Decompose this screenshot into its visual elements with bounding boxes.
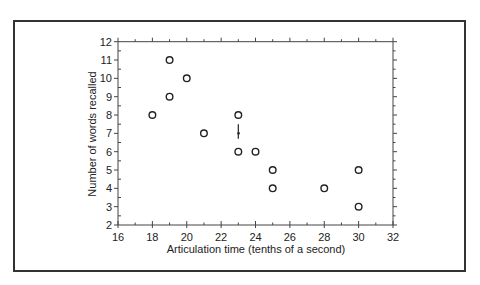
x-tick-label: 20 bbox=[181, 231, 193, 243]
x-tick-label: 16 bbox=[112, 231, 124, 243]
scatter-chart: 16182022242628303223456789101112 Articul… bbox=[0, 0, 480, 285]
y-tick-label: 2 bbox=[106, 219, 112, 231]
x-tick-label: 28 bbox=[318, 231, 330, 243]
x-tick-label: 22 bbox=[215, 231, 227, 243]
y-tick-label: 6 bbox=[106, 146, 112, 158]
data-point-marker bbox=[355, 203, 362, 210]
data-point-marker bbox=[355, 167, 362, 174]
y-tick-label: 5 bbox=[106, 164, 112, 176]
data-point-marker bbox=[235, 112, 242, 119]
y-axis-label: Number of words recalled bbox=[86, 71, 98, 196]
y-tick-label: 9 bbox=[106, 91, 112, 103]
y-tick-label: 10 bbox=[100, 72, 112, 84]
x-tick-label: 24 bbox=[249, 231, 261, 243]
data-points bbox=[149, 57, 362, 210]
y-tick-label: 7 bbox=[106, 127, 112, 139]
y-tick-label: 3 bbox=[106, 201, 112, 213]
data-point-marker bbox=[166, 93, 173, 100]
x-tick-label: 32 bbox=[387, 231, 399, 243]
data-point-marker bbox=[252, 148, 259, 155]
data-point-marker bbox=[183, 75, 190, 82]
data-point-marker bbox=[321, 185, 328, 192]
mean-marker bbox=[237, 124, 240, 139]
x-tick-label: 18 bbox=[146, 231, 158, 243]
x-tick-label: 30 bbox=[353, 231, 365, 243]
tick-labels: 16182022242628303223456789101112 bbox=[100, 36, 399, 243]
y-tick-label: 11 bbox=[101, 54, 112, 66]
data-point-marker bbox=[149, 112, 156, 119]
x-tick-label: 26 bbox=[284, 231, 296, 243]
y-tick-label: 4 bbox=[106, 182, 112, 194]
axes bbox=[114, 38, 397, 228]
y-tick-label: 12 bbox=[100, 36, 112, 48]
y-tick-label: 8 bbox=[106, 109, 112, 121]
data-point-marker bbox=[235, 148, 242, 155]
data-point-marker bbox=[201, 130, 208, 137]
data-point-marker bbox=[269, 167, 276, 174]
data-point-marker bbox=[269, 185, 276, 192]
data-point-marker bbox=[166, 57, 173, 64]
x-axis-label: Articulation time (tenths of a second) bbox=[167, 243, 346, 255]
